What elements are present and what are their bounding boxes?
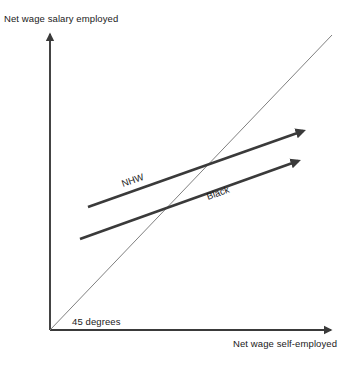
series-line-black [80, 161, 298, 239]
reference-line-45-degrees-stroke [50, 35, 332, 330]
reference-line-annotation: 45 degrees [72, 316, 121, 327]
reference-line-45-degrees [50, 35, 332, 330]
series-line-black-stroke [80, 161, 298, 239]
series-label-black: Black [205, 184, 231, 202]
series-label-nhw: NHW [120, 171, 145, 189]
series-line-nhw-stroke [88, 131, 303, 207]
series-line-nhw [88, 131, 303, 207]
plot-area: NHW Black 45 degrees [0, 0, 357, 368]
wage-comparison-figure: Net wage salary employed Net wage self-e… [0, 0, 357, 368]
